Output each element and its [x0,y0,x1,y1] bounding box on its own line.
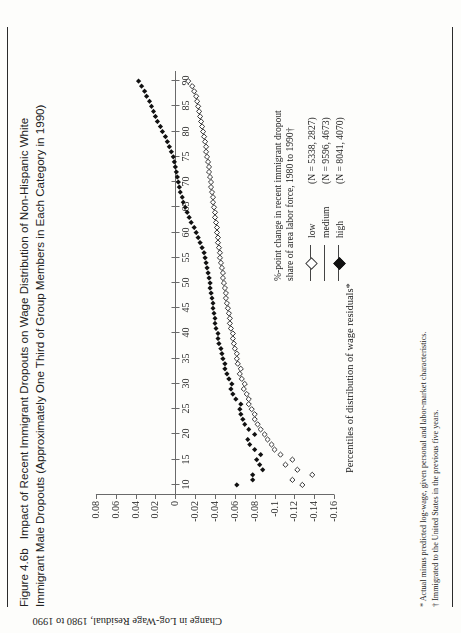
figure-body: Percentiles of distribution of wage resi… [72,0,402,633]
figure-title-block: Figure 4.6bImpact of Recent Immigrant Dr… [16,87,47,607]
open-diamond-icon [305,257,318,270]
legend-label-medium: medium [320,184,334,241]
legend-row-low[interactable]: low (N = 5338, 2827) [306,117,320,281]
chart-legend: %-point change in recent immigrant dropo… [272,9,348,281]
legend-header: %-point change in recent immigrant dropo… [272,9,297,281]
legend-row-high[interactable]: high (N = 8041, 4070) [334,117,348,281]
legend-n-low: (N = 5338, 2827) [306,117,320,184]
rotated-page-content: Figure 4.6bImpact of Recent Immigrant Dr… [0,0,461,633]
legend-row-medium[interactable]: medium (N = 9596, 4673) [320,117,334,281]
legend-symbol-medium [320,241,334,281]
figure-page: Figure 4.6bImpact of Recent Immigrant Dr… [0,0,461,633]
legend-entries: low (N = 5338, 2827) medium (N = 9596, 4… [306,117,348,281]
legend-symbol-low [306,241,320,281]
top-rule [7,27,8,607]
figure-number: Figure 4.6b [16,548,32,607]
legend-symbol-high [334,241,348,281]
figure-title-text: Impact of Recent Immigrant Dropouts on W… [17,105,46,607]
bottom-rule [452,27,453,607]
legend-header-line-1: %-point change in recent immigrant dropo… [272,9,284,281]
y-axis-title: Change in Log-Wage Residual, 1980 to 199… [32,616,222,627]
legend-label-low: low [306,184,320,241]
footnote-2: † Immigrated to the United States in the… [430,27,441,607]
footnote-1: * Actual minus predicted log-wage, given… [418,27,429,607]
x-axis-title: Percentiles of distribution of wage resi… [344,283,355,473]
legend-header-line-2: share of area labor force, 1980 to 1990† [284,9,296,281]
legend-label-high: high [334,184,348,241]
figure-notes: * Actual minus predicted log-wage, given… [418,27,442,607]
legend-n-medium: (N = 9596, 4673) [320,117,334,184]
solid-diamond-icon [333,257,346,270]
legend-n-high: (N = 8041, 4070) [334,117,348,184]
